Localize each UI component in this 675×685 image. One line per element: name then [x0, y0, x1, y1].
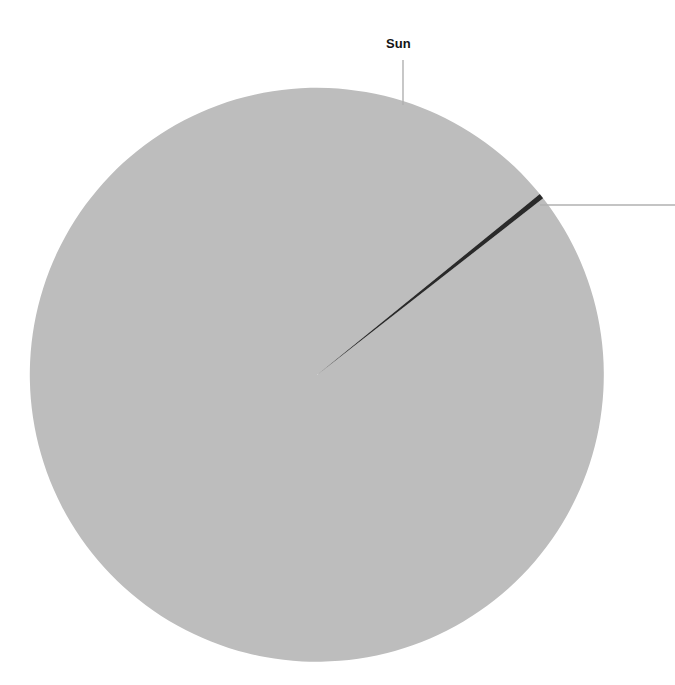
pie-label-sun: Sun — [386, 37, 411, 50]
pie-chart-figure: Sun — [0, 0, 675, 685]
pie-chart-canvas — [0, 0, 675, 685]
pie-slice-sun[interactable] — [30, 88, 604, 662]
